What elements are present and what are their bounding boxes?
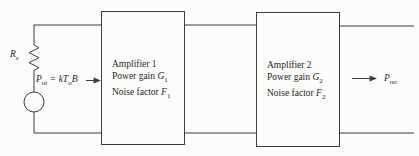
noise-subscript: 1 xyxy=(167,91,171,99)
output-power-label: Pno xyxy=(384,72,397,88)
noise-subscript: 2 xyxy=(322,92,326,100)
amplifier2-gain-line: Power gain G2 xyxy=(267,71,337,87)
pni-subscript: ni xyxy=(42,79,47,87)
gain-prefix: Power gain xyxy=(112,71,157,81)
input-power-label: Pni=kToB xyxy=(36,73,77,89)
amplifier2-noise-line: Noise factor F2 xyxy=(267,87,337,103)
gain-prefix: Power gain xyxy=(267,72,312,82)
gain-subscript: 2 xyxy=(319,77,323,85)
amplifier2-title: Amplifier 2 xyxy=(267,59,337,71)
input-arrow-icon xyxy=(94,78,102,84)
b-symbol: B xyxy=(72,74,78,84)
amplifier1-noise-line: Noise factor F1 xyxy=(112,86,182,102)
amplifier1-box: Amplifier 1 Power gain G1 Noise factor F… xyxy=(101,11,185,145)
amplifier1-gain-line: Power gain G1 xyxy=(112,70,182,86)
amplifier1-text: Amplifier 1 Power gain G1 Noise factor F… xyxy=(112,58,182,101)
noise-prefix: Noise factor xyxy=(267,88,316,98)
source-circle-icon xyxy=(24,92,44,112)
resistor-subscript: s xyxy=(16,54,19,62)
resistor-label: Rs xyxy=(10,48,19,64)
pno-subscript: no xyxy=(390,78,397,86)
noise-prefix: Noise factor xyxy=(112,87,161,97)
amplifier2-box: Amplifier 2 Power gain G2 Noise factor F… xyxy=(256,12,340,147)
amplifier1-title: Amplifier 1 xyxy=(112,58,182,70)
gain-subscript: 1 xyxy=(164,76,168,84)
output-arrow-icon xyxy=(370,76,378,82)
amplifier2-text: Amplifier 2 Power gain G2 Noise factor F… xyxy=(267,59,337,102)
equals-sign: = xyxy=(50,74,55,84)
cascaded-amplifier-noise-diagram: Rs Pni=kToB Amplifier 1 Power gain G1 No… xyxy=(0,0,419,156)
